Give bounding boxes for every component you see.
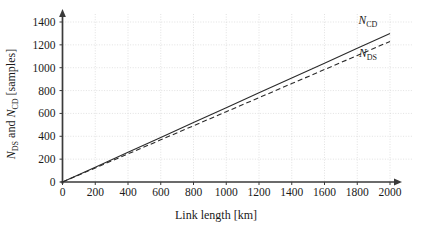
x-tick-label: 1800 (346, 186, 369, 198)
series-labels: NCDNDS (358, 14, 378, 62)
x-axis-arrow (394, 179, 402, 186)
x-tick-label: 1000 (215, 186, 238, 198)
x-tick-label: 1600 (313, 186, 336, 198)
y-tick-label: 0 (50, 176, 56, 188)
y-axis-title-text: NDS and NCD [samples] (4, 49, 20, 160)
y-tick-labels: 0200400600800100012001400 (33, 16, 56, 188)
y-tick-label: 400 (38, 130, 56, 142)
gridlines (63, 14, 413, 182)
x-tick-label: 2000 (379, 186, 402, 198)
x-tick-label: 1400 (280, 186, 303, 198)
series-line-n-ds (63, 41, 391, 182)
x-axis-title: Link length [km] (175, 208, 257, 222)
x-tick-label: 200 (87, 186, 105, 198)
y-tick-label: 1000 (33, 62, 56, 74)
y-axis-title: NDS and NCD [samples] (4, 49, 20, 160)
chart-figure: 0200400600800100012001400160018002000 02… (0, 0, 422, 227)
y-tick-label: 200 (38, 153, 56, 165)
x-tick-label: 400 (119, 186, 137, 198)
x-tick-label: 1200 (248, 186, 271, 198)
x-tick-label: 800 (185, 186, 203, 198)
series-label-n-cd: NCD (358, 14, 378, 29)
y-tick-label: 800 (38, 85, 56, 97)
series-label-n-ds: NDS (358, 47, 377, 62)
x-tick-labels: 0200400600800100012001400160018002000 (60, 186, 402, 198)
y-axis-arrow (59, 9, 66, 17)
y-tick-label: 600 (38, 107, 56, 119)
x-tick-label: 600 (152, 186, 170, 198)
line-chart: 0200400600800100012001400160018002000 02… (0, 0, 422, 227)
x-tick-label: 0 (60, 186, 66, 198)
y-tick-label: 1200 (33, 39, 56, 51)
axes (59, 9, 402, 185)
y-tick-label: 1400 (33, 16, 56, 28)
